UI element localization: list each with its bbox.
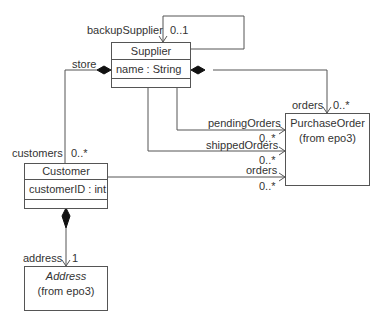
- purchase-order-package: (from epo3): [286, 131, 369, 145]
- customer-class-name: Customer: [25, 164, 107, 180]
- customer-id-attribute: customerID : int: [25, 180, 107, 200]
- shipped-orders-role: shippedOrders: [206, 139, 278, 151]
- supplier-orders-role: orders: [292, 99, 323, 111]
- address-class[interactable]: Address (from epo3): [24, 266, 108, 311]
- store-composition-diamond-icon: [97, 66, 111, 74]
- supplier-class[interactable]: Supplier name : String: [111, 42, 191, 88]
- purchase-order-class[interactable]: PurchaseOrder (from epo3): [285, 113, 370, 186]
- customer-orders-multiplicity: 0..*: [259, 180, 276, 192]
- pending-orders-role: pendingOrders: [208, 117, 281, 129]
- store-role: store: [72, 58, 96, 70]
- supplier-orders-multiplicity: 0..*: [333, 99, 350, 111]
- supplier-class-name: Supplier: [112, 43, 190, 60]
- customers-multiplicity: 0..*: [71, 147, 88, 159]
- customer-orders-role: orders: [246, 164, 277, 176]
- purchase-order-class-name: PurchaseOrder: [286, 114, 369, 131]
- supplier-operations-section: [112, 79, 190, 87]
- address-multiplicity: 1: [72, 252, 78, 264]
- address-class-name: Address: [25, 267, 107, 284]
- backup-supplier-multiplicity: 0..1: [170, 24, 188, 36]
- supplier-name-attribute: name : String: [112, 60, 190, 79]
- address-package: (from epo3): [25, 284, 107, 298]
- customer-address-composition-diamond-icon: [62, 208, 70, 228]
- customer-operations-section: [25, 200, 107, 208]
- supplier-orders-composition-diamond-icon: [191, 66, 205, 74]
- customers-role: customers: [12, 147, 63, 159]
- backup-supplier-role: backupSupplier: [87, 24, 163, 36]
- customer-class[interactable]: Customer customerID : int: [24, 163, 108, 209]
- address-role: address: [23, 252, 62, 264]
